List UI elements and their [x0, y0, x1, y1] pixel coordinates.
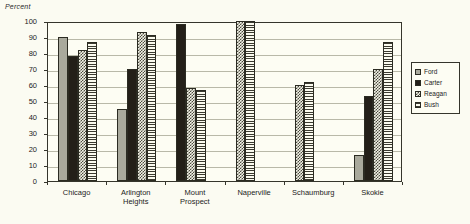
bar — [186, 88, 196, 181]
bar — [137, 32, 147, 181]
y-tick-label: 30 — [0, 130, 37, 138]
bar — [196, 90, 206, 181]
bar-chart: Percent 0102030405060708090100 ChicagoAr… — [0, 0, 470, 224]
y-tick-label: 70 — [0, 66, 37, 74]
bar — [147, 35, 157, 181]
x-axis-label: Schaumburg — [284, 188, 343, 197]
y-tick-label: 0 — [0, 178, 37, 186]
y-tick-label: 80 — [0, 50, 37, 58]
y-tick-label: 40 — [0, 114, 37, 122]
bar — [78, 50, 88, 181]
legend-item-label: Carter — [424, 79, 442, 86]
bar — [245, 21, 255, 181]
y-tick-label: 20 — [0, 146, 37, 154]
bar — [383, 42, 393, 181]
bar — [58, 37, 68, 181]
legend-item-label: Ford — [424, 68, 437, 75]
legend-item: Carter — [415, 77, 459, 88]
y-tick-label: 90 — [0, 34, 37, 42]
x-tick-mark — [47, 182, 48, 185]
x-axis-label: Arlington Heights — [106, 188, 165, 206]
bar — [236, 21, 246, 181]
legend-item: Ford — [415, 66, 459, 77]
y-tick-label: 60 — [0, 82, 37, 90]
plot-area — [47, 22, 402, 182]
bar — [373, 69, 383, 181]
gridline — [48, 71, 401, 72]
x-tick-mark — [402, 182, 403, 185]
x-axis-label: Mount Prospect — [165, 188, 224, 206]
legend-item-label: Reagan — [424, 90, 447, 97]
gridline — [48, 151, 401, 152]
bar — [68, 56, 78, 181]
x-tick-mark — [225, 182, 226, 185]
x-axis-label: Naperville — [225, 188, 284, 197]
gridline — [48, 39, 401, 40]
gridline — [48, 167, 401, 168]
gridline — [48, 135, 401, 136]
bar — [127, 69, 137, 181]
bar — [304, 82, 314, 181]
gridline — [48, 103, 401, 104]
legend-swatch-icon — [415, 69, 421, 75]
x-tick-mark — [165, 182, 166, 185]
legend-item-label: Bush — [424, 101, 439, 108]
y-tick-label: 100 — [0, 18, 37, 26]
x-tick-mark — [106, 182, 107, 185]
y-tick-label: 10 — [0, 162, 37, 170]
bar — [176, 24, 186, 181]
legend-swatch-icon — [415, 91, 421, 97]
y-axis-title: Percent — [5, 3, 31, 10]
legend-item: Reagan — [415, 88, 459, 99]
legend-swatch-icon — [415, 102, 421, 108]
gridline — [48, 55, 401, 56]
bar — [364, 96, 374, 181]
x-tick-mark — [343, 182, 344, 185]
gridline — [48, 87, 401, 88]
gridline — [48, 119, 401, 120]
bar — [87, 42, 97, 181]
bar — [354, 155, 364, 181]
legend: FordCarterReaganBush — [411, 62, 460, 114]
x-axis-label: Chicago — [47, 188, 106, 197]
legend-swatch-icon — [415, 80, 421, 86]
bar — [295, 85, 305, 181]
x-axis-label: Skokie — [343, 188, 402, 197]
bar — [117, 109, 127, 181]
x-tick-mark — [284, 182, 285, 185]
legend-item: Bush — [415, 99, 459, 110]
y-tick-label: 50 — [0, 98, 37, 106]
